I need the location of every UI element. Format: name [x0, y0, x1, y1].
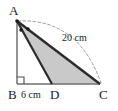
vertex-label-c: C	[99, 88, 108, 101]
base-measure-label: 6 cm	[21, 90, 41, 100]
vertex-label-b: B	[8, 88, 17, 101]
hypotenuse-measure-label: 20 cm	[62, 33, 87, 43]
angle-mark-icon-1	[19, 28, 22, 31]
vertex-dot-a	[15, 19, 19, 23]
angle-mark-icon-2	[26, 27, 29, 30]
vertex-label-a: A	[9, 4, 18, 17]
vertex-label-d: D	[50, 88, 59, 101]
right-angle-marker-icon	[17, 77, 24, 84]
geometry-figure: A B D C 6 cm 20 cm	[0, 0, 118, 111]
